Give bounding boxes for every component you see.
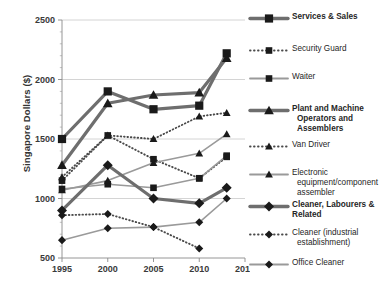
data-point (195, 244, 203, 252)
data-point (223, 152, 230, 159)
series-line (62, 134, 227, 190)
data-point (149, 105, 157, 113)
legend-item[interactable]: Waiter (248, 72, 315, 84)
data-point (104, 87, 112, 95)
legend-label: Waiter (290, 72, 315, 82)
legend-marker-icon (248, 141, 290, 152)
chart-page: Singapore Dollars ($) 500100015002000250… (0, 0, 391, 289)
series-line (62, 214, 199, 249)
x-tick-label: 2000 (98, 264, 118, 274)
legend-label: Cleaner, Labourers &Related (290, 200, 374, 220)
x-tick-label: 1995 (52, 264, 72, 274)
legend-label: Van Driver (290, 140, 330, 150)
legend-label: Office Cleaner (290, 258, 344, 268)
data-point (195, 112, 203, 119)
line-chart: 500100015002000250019952000200520102015 (0, 0, 250, 289)
legend-item[interactable]: Office Cleaner (248, 258, 344, 270)
series-line (62, 113, 227, 177)
legend-item[interactable]: Van Driver (248, 140, 330, 152)
y-tick-label: 500 (40, 253, 55, 263)
legend-label-line: Security Guard (292, 44, 347, 54)
data-point (104, 210, 112, 218)
data-point (58, 236, 66, 244)
legend-marker-icon (248, 13, 290, 24)
legend-label-line: Services & Sales (292, 12, 358, 22)
legend-label: Plant and MachineOperators and Assembler… (290, 104, 391, 135)
legend-label-line: Related (292, 210, 374, 220)
legend-marker-icon (248, 229, 290, 240)
legend-item[interactable]: Security Guard (248, 44, 347, 56)
legend-marker-icon (248, 259, 290, 270)
plot-area: Singapore Dollars ($) 500100015002000250… (0, 0, 250, 289)
legend-marker-icon (248, 73, 290, 84)
data-point (195, 149, 203, 156)
data-point (196, 175, 203, 182)
series-line (62, 135, 227, 180)
legend-label: Electronicequipment/componentassembler (290, 168, 378, 199)
legend-item[interactable]: Cleaner, Labourers &Related (248, 200, 374, 220)
legend-label-line: Electronic (292, 168, 378, 178)
legend-item[interactable]: Plant and MachineOperators and Assembler… (248, 104, 391, 135)
y-tick-label: 1000 (35, 194, 55, 204)
legend-label: Cleaner (industrialestablishment) (290, 228, 358, 248)
legend-item[interactable]: Services & Sales (248, 12, 358, 24)
legend-label-line: Office Cleaner (292, 258, 344, 268)
legend-item[interactable]: Cleaner (industrialestablishment) (248, 228, 358, 248)
legend-label-line: Cleaner (industrial (292, 228, 358, 238)
x-tick-label: 2005 (143, 264, 163, 274)
legend-item[interactable]: Electronicequipment/componentassembler (248, 168, 378, 199)
y-tick-label: 2500 (35, 15, 55, 25)
data-point (58, 135, 66, 143)
y-tick-label: 1500 (35, 134, 55, 144)
data-point (150, 184, 157, 191)
legend-label-line: Operators and Assemblers (292, 114, 391, 134)
legend-label-line: equipment/component (292, 178, 378, 188)
data-point (195, 102, 203, 110)
legend-label-line: Cleaner, Labourers & (292, 200, 374, 210)
data-point (223, 130, 231, 137)
legend-marker-icon (248, 201, 290, 212)
data-point (104, 224, 112, 232)
legend-label-line: Van Driver (292, 140, 330, 150)
legend-label-line: Plant and Machine (292, 104, 391, 114)
data-point (149, 223, 157, 231)
x-tick-label: 2010 (189, 264, 209, 274)
legend-label-line: Waiter (292, 72, 315, 82)
legend-label-line: assembler (292, 188, 378, 198)
legend-marker-icon (248, 45, 290, 56)
chart-legend: Services & SalesSecurity GuardWaiterPlan… (248, 0, 391, 289)
legend-label-line: establishment) (292, 238, 358, 248)
legend-label: Services & Sales (290, 12, 358, 22)
legend-marker-icon (248, 169, 290, 180)
legend-marker-icon (248, 105, 290, 116)
legend-label: Security Guard (290, 44, 347, 54)
y-tick-label: 2000 (35, 75, 55, 85)
